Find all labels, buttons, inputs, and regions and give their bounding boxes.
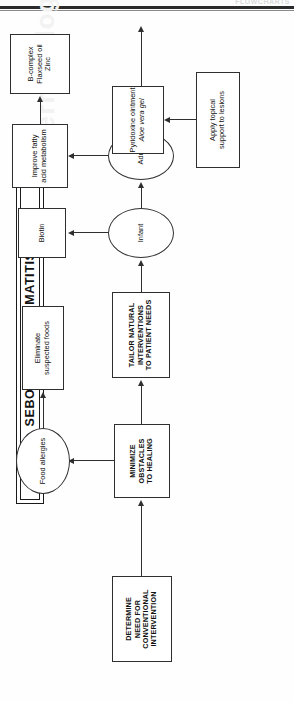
node-improve-fatty-acid-metabolism[interactable]: Improve fatty acid metabolism xyxy=(12,124,68,188)
edge-adult-to-improve-stem xyxy=(72,155,108,156)
edge-tailor-to-infant-arrow xyxy=(138,260,144,266)
edge-minimize-to-tailor xyxy=(141,384,142,424)
bcomplex-line-3: Zinc xyxy=(44,44,53,83)
scanned-page: FLOWCHARTS Dermatology SEBORRHEIC DERMAT… xyxy=(0,0,294,702)
edge-minimize-to-tailor-arrow xyxy=(138,380,144,386)
infant-label: Infant xyxy=(137,224,146,243)
food-allergies-label: Food allergies xyxy=(39,438,48,484)
edge-adult-to-improve-arrow xyxy=(68,154,74,160)
edge-food-allergies-to-eliminate xyxy=(43,396,44,428)
edge-food-allergies-to-eliminate-arrow xyxy=(40,392,46,398)
edge-tailor-to-infant xyxy=(141,264,142,292)
edge-apply-topical-to-pyridoxine-stem xyxy=(168,119,196,120)
edge-adult-to-apply-topical-arrow xyxy=(138,26,144,32)
minimize-line-3: TO HEALING xyxy=(146,438,154,484)
edge-determine-to-minimize xyxy=(141,504,142,576)
edge-infant-to-biotin-arrow xyxy=(68,231,74,237)
improve-line-2: acid metabolism xyxy=(40,129,49,182)
eliminate-line-2: suspected foods xyxy=(43,321,52,375)
node-infant[interactable]: Infant xyxy=(108,208,174,258)
node-food-allergies[interactable]: Food allergies xyxy=(16,428,70,494)
apply-topical-line-2: support to lesions xyxy=(218,91,227,149)
edge-infant-to-adult-arrow xyxy=(138,182,144,188)
biotin-label: Biotin xyxy=(38,224,47,243)
node-determine-conventional[interactable]: DETERMINE NEED FOR CONVENTIONAL INTERVEN… xyxy=(112,576,172,662)
edge-infant-to-biotin-stem xyxy=(72,232,108,233)
determine-line-4: INTERVENTION xyxy=(150,589,158,648)
node-minimize-obstacles[interactable]: MINIMIZE OBSTACLES TO HEALING xyxy=(114,424,170,498)
edge-infant-to-adult xyxy=(141,186,142,208)
node-biotin[interactable]: Biotin xyxy=(18,208,66,258)
edge-improve-to-bcomplex xyxy=(40,100,41,124)
tailor-line-3: TO PATIENT NEEDS xyxy=(145,300,153,371)
node-pyridoxine-aloe[interactable]: Pyridoxine ointment Aloe vera gel xyxy=(112,86,164,154)
flowchart-canvas: SEBORRHEIC DERMATITIS DETERMINE NEED FOR… xyxy=(0,0,280,672)
edge-minimize-to-food-allergies-stem xyxy=(72,460,114,461)
node-tailor-natural-interventions[interactable]: TAILOR NATURAL INTERVENTIONS TO PATIENT … xyxy=(112,292,170,378)
node-apply-topical-support[interactable]: Apply topical support to lesions xyxy=(196,72,240,168)
pyridoxine-line-2: Aloe vera gel xyxy=(138,88,147,153)
edge-apply-topical-to-pyridoxine-arrow xyxy=(164,118,170,124)
edge-improve-to-bcomplex-arrow xyxy=(37,96,43,102)
node-bcomplex-flaxseed-zinc[interactable]: B-complex Flaxseed oil Zinc xyxy=(10,34,70,94)
node-eliminate-suspected-foods[interactable]: Eliminate suspected foods xyxy=(22,306,64,390)
edge-determine-to-minimize-arrow xyxy=(138,500,144,506)
